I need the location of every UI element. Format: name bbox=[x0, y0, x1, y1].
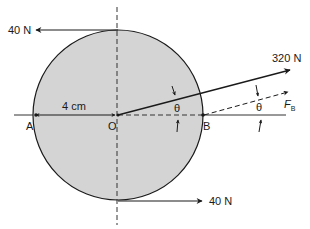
oblique-force-label: 320 N bbox=[272, 52, 301, 64]
theta2-tick-top bbox=[256, 85, 258, 96]
force-diagram: 4 cm A O B 40 N 40 N 320 N FB θ θ bbox=[0, 0, 310, 229]
bottom-force-label: 40 N bbox=[209, 195, 232, 207]
point-a-label: A bbox=[26, 120, 34, 132]
theta1-label: θ bbox=[174, 102, 180, 114]
top-force-label: 40 N bbox=[8, 24, 31, 36]
dimension-label: 4 cm bbox=[62, 100, 86, 112]
fb-force-label: FB bbox=[284, 98, 296, 112]
point-a-dot bbox=[34, 113, 38, 117]
point-o-label: O bbox=[108, 120, 117, 132]
theta2-label: θ bbox=[256, 101, 262, 113]
fb-force-subscript: B bbox=[291, 105, 296, 112]
fb-force-arrow bbox=[204, 92, 288, 115]
theta2-tick-bottom bbox=[259, 120, 261, 132]
point-b-label: B bbox=[203, 120, 210, 132]
